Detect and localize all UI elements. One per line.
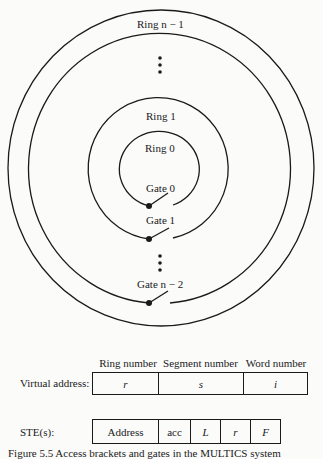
gate-n-minus-2-label: Gate n − 2	[137, 278, 183, 290]
gate-0-pivot	[146, 203, 152, 209]
figure-caption: Figure 5.5 Access brackets and gates in …	[8, 447, 281, 459]
virtual-address-label: Virtual address:	[20, 377, 89, 389]
ellipsis-dot	[158, 63, 162, 67]
field-segment-number: s	[159, 373, 244, 394]
gate-0-switch	[149, 193, 168, 206]
ste-box: Address acc L r F	[92, 419, 281, 444]
gate-1-label: Gate 1	[146, 214, 175, 226]
header-ring-number: Ring number	[97, 357, 159, 369]
ellipsis-dot	[158, 268, 162, 272]
gate-1-pivot	[146, 236, 152, 242]
ste-field-ring: r	[221, 420, 251, 443]
gate-0-label: Gate 0	[146, 182, 175, 194]
ste-label: STE(s):	[20, 426, 54, 438]
virtual-address-box: r s i	[92, 372, 308, 395]
ste-field-address: Address	[93, 420, 159, 443]
gate-n-minus-2-pivot	[146, 300, 152, 306]
ring-1-label: Ring 1	[146, 110, 176, 122]
ellipsis-dot	[158, 56, 162, 60]
header-segment-number: Segment number	[158, 357, 243, 369]
ring-0-label: Ring 0	[145, 142, 175, 154]
ellipsis-dot	[158, 254, 162, 258]
ellipsis-dot	[158, 70, 162, 74]
header-word-number: Word number	[243, 357, 309, 369]
ring-n-minus-1-label: Ring n − 1	[137, 18, 184, 30]
gate-1-switch	[149, 228, 169, 239]
ellipsis-dot	[158, 261, 162, 265]
ste-field-flags: F	[251, 420, 280, 443]
gate-n-minus-2-switch	[149, 291, 168, 303]
field-ring-number: r	[93, 373, 159, 394]
field-word-number: i	[244, 373, 307, 394]
ste-field-acc: acc	[159, 420, 191, 443]
ste-field-length: L	[191, 420, 221, 443]
